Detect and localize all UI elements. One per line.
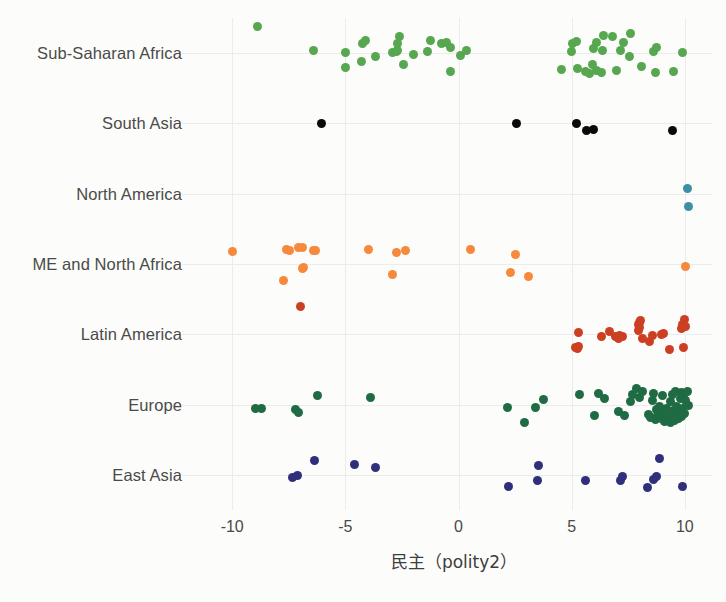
gridline-horizontal (182, 194, 712, 195)
data-point (681, 322, 690, 331)
data-point (683, 387, 692, 396)
data-point (683, 184, 692, 193)
data-point (310, 456, 319, 465)
data-point (423, 47, 432, 56)
data-point (298, 243, 307, 252)
x-axis-tick-label: -10 (221, 518, 244, 536)
data-point (228, 247, 237, 256)
data-point (296, 302, 305, 311)
data-point (572, 119, 581, 128)
data-point (317, 119, 326, 128)
data-point (279, 276, 288, 285)
data-point (371, 463, 380, 472)
data-point (313, 391, 322, 400)
data-point (357, 57, 366, 66)
data-point (446, 67, 455, 76)
gridline-horizontal (182, 123, 712, 124)
data-point (649, 389, 658, 398)
y-axis-tick-label: East Asia (112, 465, 182, 484)
data-point (597, 68, 606, 77)
data-point (399, 60, 408, 69)
data-point (364, 245, 373, 254)
data-point (652, 43, 661, 52)
data-point (590, 411, 599, 420)
data-point (589, 125, 598, 134)
data-point (567, 47, 576, 56)
data-point (648, 331, 657, 340)
data-point (681, 262, 690, 271)
data-point (600, 394, 609, 403)
data-point (651, 68, 660, 77)
data-point (669, 67, 678, 76)
y-axis-tick-label: South Asia (102, 114, 182, 133)
data-point (534, 461, 543, 470)
data-point (504, 482, 513, 491)
data-point (401, 246, 410, 255)
data-point (620, 411, 629, 420)
data-point (446, 43, 455, 52)
data-point (531, 403, 540, 412)
data-point (625, 52, 634, 61)
data-point (311, 246, 320, 255)
data-point (520, 418, 529, 427)
data-point (652, 472, 661, 481)
data-point (533, 476, 542, 485)
data-point (506, 268, 515, 277)
data-point (599, 31, 608, 40)
data-point (626, 29, 635, 38)
scatter-chart: Sub-Saharan AfricaSouth AsiaNorth Americ… (0, 0, 726, 602)
data-point (574, 342, 583, 351)
data-point (618, 332, 627, 341)
x-axis-tick-label: -5 (338, 518, 352, 536)
y-axis-tick-label: North America (76, 184, 182, 203)
y-axis-tick-label: Europe (128, 395, 182, 414)
data-point (257, 404, 266, 413)
data-point (598, 46, 607, 55)
data-point (636, 316, 645, 325)
x-axis-tick-label: 0 (454, 518, 463, 536)
data-point (665, 345, 674, 354)
data-point (426, 36, 435, 45)
data-point (655, 454, 664, 463)
data-point (679, 343, 688, 352)
data-point (678, 482, 687, 491)
y-axis-label-group: Sub-Saharan AfricaSouth AsiaNorth Americ… (0, 18, 182, 510)
data-point (638, 387, 647, 396)
data-point (466, 245, 475, 254)
data-point (285, 246, 294, 255)
data-point (575, 390, 584, 399)
data-point (643, 483, 652, 492)
data-point (680, 409, 689, 418)
data-point (409, 50, 418, 59)
y-axis-tick-label: Latin America (81, 325, 182, 344)
data-point (503, 403, 512, 412)
plot-area (196, 18, 712, 510)
data-point (608, 32, 617, 41)
data-point (612, 66, 621, 75)
data-point (341, 63, 350, 72)
data-point (574, 328, 583, 337)
data-point (572, 37, 581, 46)
data-point (366, 393, 375, 402)
x-axis-title: 民主（polity2） (196, 548, 712, 573)
gridline-horizontal (182, 475, 712, 476)
data-point (388, 270, 397, 279)
data-point (371, 52, 380, 61)
y-axis-tick-label: ME and North Africa (32, 255, 182, 274)
data-point (668, 126, 677, 135)
data-point (524, 272, 533, 281)
data-point (350, 460, 359, 469)
data-point (294, 408, 303, 417)
data-point (395, 32, 404, 41)
data-point (512, 119, 521, 128)
data-point (557, 65, 566, 74)
data-point (619, 38, 628, 47)
data-point (678, 48, 687, 57)
data-point (637, 62, 646, 71)
data-point (684, 401, 693, 410)
data-point (299, 263, 308, 272)
data-point (511, 250, 520, 259)
data-point (539, 395, 548, 404)
y-axis-tick-label: Sub-Saharan Africa (37, 44, 182, 63)
gridline-horizontal (182, 264, 712, 265)
